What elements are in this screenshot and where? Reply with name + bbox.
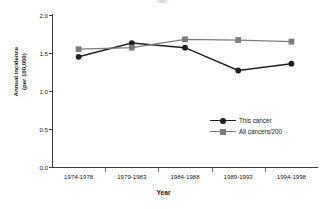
legend-swatch-this-cancer — [210, 116, 236, 125]
data-point-square — [129, 45, 135, 51]
x-axis-title: Year — [0, 189, 327, 196]
series-plot — [0, 0, 327, 209]
series-this-cancer — [76, 40, 295, 73]
circle-marker-icon — [220, 118, 226, 124]
legend-item-all-cancers: All cancers/200 — [210, 126, 322, 137]
data-point-circle — [235, 68, 241, 74]
legend-item-this-cancer: This cancer — [210, 115, 322, 126]
data-point-square — [76, 46, 82, 52]
data-point-circle — [289, 61, 295, 67]
legend-label-all-cancers: All cancers/200 — [236, 128, 282, 135]
data-point-circle — [182, 45, 188, 51]
chart-legend: This cancer All cancers/200 — [210, 115, 322, 137]
data-point-square — [182, 36, 188, 42]
incidence-line-chart: Annual incidence (per 100,000) 0.00.51.0… — [0, 0, 327, 209]
square-marker-icon — [220, 129, 226, 135]
legend-swatch-all-cancers — [210, 127, 236, 136]
data-point-square — [235, 37, 241, 43]
data-point-circle — [76, 54, 82, 60]
data-point-square — [289, 39, 295, 45]
legend-label-this-cancer: This cancer — [236, 117, 272, 124]
